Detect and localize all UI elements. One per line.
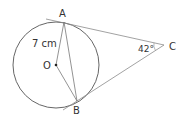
tangent-line-cb: [63, 45, 164, 110]
geometry-diagram: A B C O 7 cm 42°: [0, 0, 193, 117]
label-center-o: O: [43, 60, 51, 71]
label-point-c: C: [169, 41, 176, 52]
center-point-dot: [55, 64, 58, 67]
label-point-b: B: [73, 105, 80, 116]
angle-arc-c: [154, 43, 156, 51]
label-radius-length: 7 cm: [32, 38, 57, 49]
radius-oa: [56, 22, 64, 65]
label-angle-c: 42°: [138, 44, 154, 54]
label-point-a: A: [59, 8, 66, 19]
